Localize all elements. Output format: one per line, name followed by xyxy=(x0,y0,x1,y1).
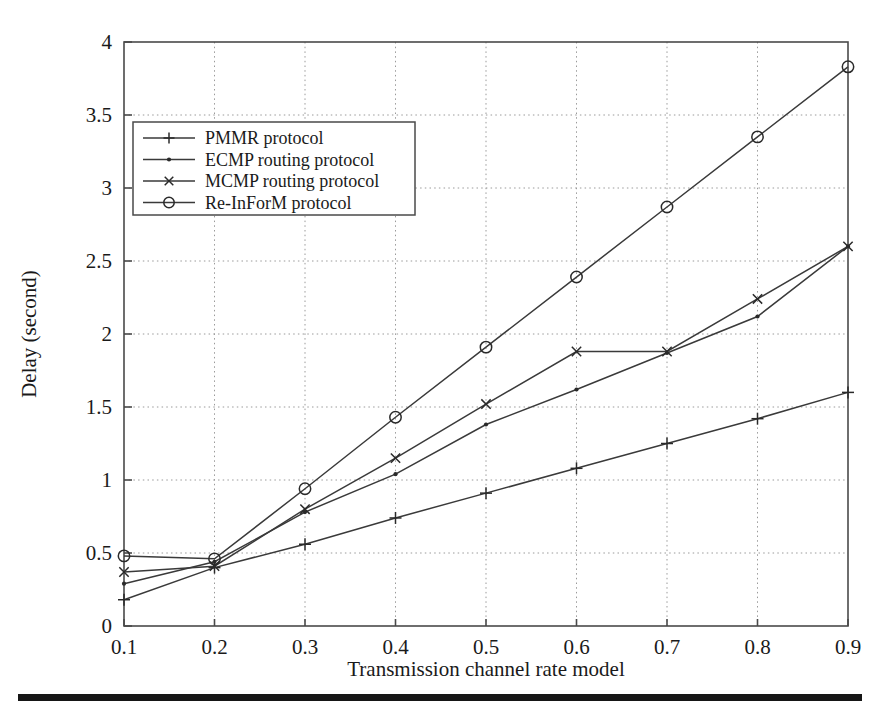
x-axis-tick-labels: 0.10.20.30.40.50.60.70.80.9 xyxy=(111,635,861,659)
y-tick-label-2: 2 xyxy=(102,322,113,346)
legend-label: Re-InForM protocol xyxy=(205,193,351,213)
y-tick-label-0.5: 0.5 xyxy=(86,541,112,565)
legend: PMMR protocolECMP routing protocolMCMP r… xyxy=(133,122,415,215)
marker-dot xyxy=(484,422,488,426)
x-tick-label-0.5: 0.5 xyxy=(473,635,499,659)
x-tick-label-0.2: 0.2 xyxy=(201,635,227,659)
y-tick-label-2.5: 2.5 xyxy=(86,249,112,273)
legend-label: ECMP routing protocol xyxy=(205,150,374,170)
x-tick-label-0.1: 0.1 xyxy=(111,635,137,659)
marker-dot xyxy=(755,314,759,318)
y-axis-title: Delay (second) xyxy=(17,270,41,398)
x-tick-label-0.6: 0.6 xyxy=(563,635,589,659)
delay-vs-channel-rate-line-chart: 0.10.20.30.40.50.60.70.80.9 00.511.522.5… xyxy=(0,0,880,709)
y-tick-label-3: 3 xyxy=(102,176,113,200)
figure-container: 0.10.20.30.40.50.60.70.80.9 00.511.522.5… xyxy=(0,0,880,709)
y-tick-label-1: 1 xyxy=(102,468,113,492)
y-tick-label-4: 4 xyxy=(102,30,113,54)
marker-dot xyxy=(212,560,216,564)
x-tick-label-0.3: 0.3 xyxy=(292,635,318,659)
marker-dot xyxy=(574,387,578,391)
canvas-background xyxy=(0,0,880,709)
bottom-divider-rule xyxy=(18,694,862,701)
x-tick-label-0.7: 0.7 xyxy=(654,635,680,659)
y-tick-label-3.5: 3.5 xyxy=(86,103,112,127)
marker-dot xyxy=(167,157,171,161)
x-tick-label-0.8: 0.8 xyxy=(744,635,770,659)
x-axis-title: Transmission channel rate model xyxy=(347,657,625,681)
legend-label: MCMP routing protocol xyxy=(205,171,379,191)
marker-dot xyxy=(393,472,397,476)
legend-label: PMMR protocol xyxy=(205,128,324,148)
y-tick-label-0: 0 xyxy=(102,614,113,638)
x-tick-label-0.9: 0.9 xyxy=(835,635,861,659)
y-tick-label-1.5: 1.5 xyxy=(86,395,112,419)
marker-dot xyxy=(122,582,126,586)
x-tick-label-0.4: 0.4 xyxy=(382,635,409,659)
